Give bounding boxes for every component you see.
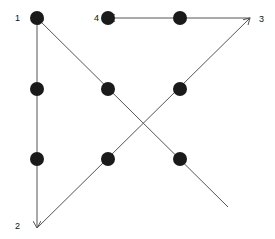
- step-label-2: 2: [15, 221, 20, 231]
- dot-6: [173, 82, 187, 96]
- dot-4: [30, 82, 44, 96]
- solution-path: [37, 18, 250, 228]
- nine-dot-diagram: 1234: [0, 0, 275, 239]
- step-label-1: 1: [15, 13, 20, 23]
- dot-9: [173, 152, 187, 166]
- dot-3: [173, 11, 187, 25]
- step-label-4: 4: [94, 13, 99, 23]
- step-labels: 1234: [15, 13, 264, 231]
- dot-5: [101, 82, 115, 96]
- dot-1: [30, 11, 44, 25]
- dot-8: [101, 152, 115, 166]
- dot-7: [30, 152, 44, 166]
- step-label-3: 3: [259, 14, 264, 24]
- path-segment-1: [37, 18, 228, 207]
- dot-2: [101, 11, 115, 25]
